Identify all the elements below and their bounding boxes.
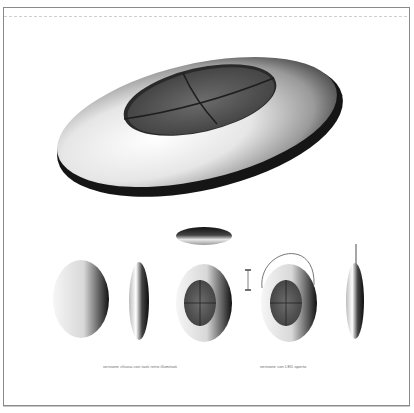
side-view [129,262,149,340]
perspective-view [44,33,356,221]
back-view [53,260,109,338]
caption-closed-version: versione chiusa con tasti retro illumina… [103,364,177,369]
front-view-open [261,254,317,342]
caption-open-version: versione con LED aperto [260,364,306,369]
front-view [176,264,232,342]
side-view-open [346,244,364,339]
top-edge-view [176,227,232,245]
dimension-marker [245,270,251,290]
render-canvas [0,0,414,413]
